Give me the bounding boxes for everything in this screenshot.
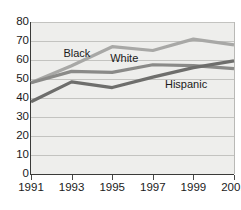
series-lines: [0, 0, 241, 210]
line-chart: 01020304050607080 1991199319951997199920…: [0, 0, 241, 210]
series-label-white: White: [110, 53, 138, 64]
series-label-hispanic: Hispanic: [165, 79, 207, 90]
series-label-black: Black: [63, 48, 90, 59]
